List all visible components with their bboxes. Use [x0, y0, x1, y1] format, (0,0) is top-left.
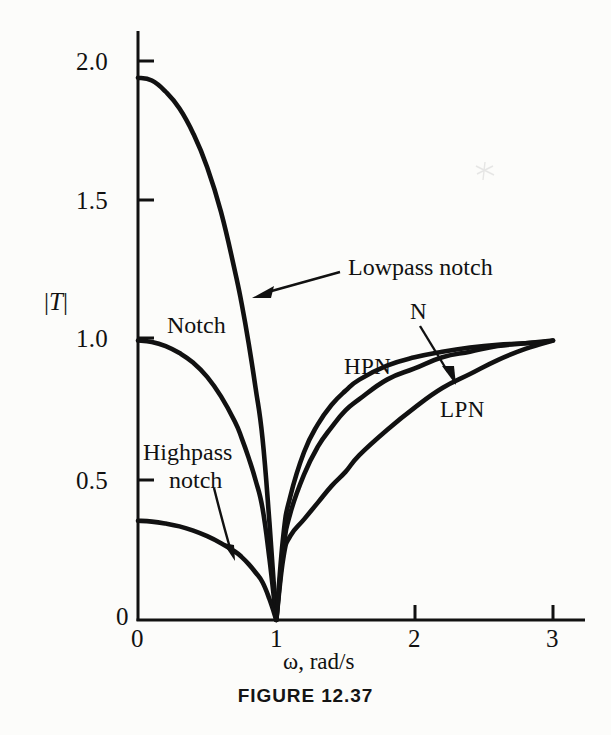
annotation-hpn: HPN [344, 355, 391, 380]
leader-lowpass-notch [268, 272, 340, 292]
annotation-highpass-notch-line1: Highpass [143, 440, 232, 466]
y-axis-title-text: T [49, 288, 63, 315]
annotation-lowpass-notch: Lowpass notch [348, 255, 493, 281]
figure-caption: FIGURE 12.37 [0, 685, 611, 707]
x-tick-label-2: 2 [408, 625, 421, 652]
annotation-n: N [410, 300, 427, 325]
x-tick-label-3: 3 [546, 625, 559, 652]
y-axis-title: |T| [44, 288, 68, 315]
y-tick-label-1p5: 1.5 [76, 187, 108, 214]
chart-plot [0, 0, 611, 735]
y-tick-label-0p5: 0.5 [76, 467, 108, 494]
y-tick-label-2p0: 2.0 [76, 48, 108, 75]
arrowhead-lowpass-notch [252, 286, 274, 298]
annotation-highpass-notch-line2: notch [169, 468, 222, 494]
x-axis-title: ω, rad/s [283, 650, 354, 675]
annotation-notch: Notch [167, 313, 226, 339]
curves [138, 78, 553, 620]
y-tick-label-0: 0 [116, 603, 129, 630]
x-tick-label-0: 0 [131, 625, 144, 652]
y-tick-label-1p0: 1.0 [76, 325, 108, 352]
figure-container: 2.0 1.5 1.0 0.5 0 0 1 2 3 |T| ω, rad/s L… [0, 0, 611, 735]
x-tick-label-1: 1 [270, 625, 283, 652]
x-axis-ticks [277, 605, 553, 620]
annotation-lpn: LPN [440, 398, 485, 423]
y-axis-ticks [138, 61, 154, 480]
